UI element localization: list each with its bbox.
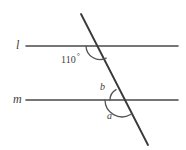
- geometry-diagram: l m 110° b a: [0, 0, 186, 150]
- transversal-line: [81, 14, 148, 145]
- label-line-m: m: [13, 93, 22, 105]
- label-angle-110-value: 110: [61, 54, 76, 65]
- label-angle-a: a: [107, 111, 112, 121]
- figure-canvas: [0, 0, 186, 150]
- label-line-l: l: [16, 39, 19, 51]
- angle-arc-b: [110, 90, 116, 100]
- degree-symbol-icon: °: [77, 52, 80, 61]
- label-angle-110: 110°: [61, 53, 80, 65]
- label-angle-b: b: [100, 82, 105, 92]
